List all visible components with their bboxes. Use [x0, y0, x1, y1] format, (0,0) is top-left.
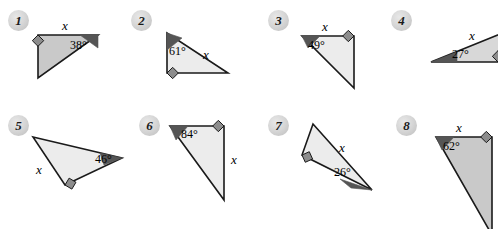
figure-number-badge-4: 4 [391, 10, 412, 31]
triangle-figure-1 [32, 35, 98, 78]
angle-label-8: 62° [443, 139, 460, 154]
figure-number-badge-2: 2 [131, 10, 152, 31]
angle-label-4: 27° [452, 47, 469, 62]
figure-number-badge-1: 1 [8, 10, 29, 31]
right-angle-marker [213, 120, 224, 131]
figure-number-badge-3: 3 [268, 10, 289, 31]
angle-wedge-marker [340, 179, 372, 190]
figure-number-badge-7: 7 [268, 115, 289, 136]
unknown-side-label-1: x [62, 18, 68, 34]
triangle-diagrams-layer [0, 0, 498, 229]
triangle-figure-7 [302, 124, 372, 190]
right-angle-marker [343, 30, 354, 41]
worksheet-page: 1x38°2x61°3x49°4x27°5x46°684°x7x26°8x62° [0, 0, 498, 229]
angle-label-1: 38° [70, 38, 87, 53]
unknown-side-label-2: x [203, 47, 209, 63]
unknown-side-label-3: x [322, 19, 328, 35]
right-angle-marker [65, 178, 76, 189]
unknown-side-label-5: x [36, 162, 42, 178]
angle-label-6: 84° [181, 127, 198, 142]
unknown-side-label-7: x [339, 140, 345, 156]
right-angle-marker [481, 131, 492, 142]
right-angle-marker [32, 35, 43, 46]
right-angle-marker [492, 51, 498, 62]
angle-label-7: 26° [334, 165, 351, 180]
triangle-outline [38, 35, 98, 78]
right-angle-marker [167, 67, 178, 78]
unknown-side-label-8: x [456, 120, 462, 136]
figure-number-badge-5: 5 [8, 115, 29, 136]
triangle-outline [302, 124, 372, 190]
figure-number-badge-8: 8 [396, 115, 417, 136]
angle-label-2: 61° [169, 44, 186, 59]
unknown-side-label-4: x [469, 28, 475, 44]
right-angle-marker [302, 152, 313, 163]
angle-label-5: 46° [95, 152, 112, 167]
figure-number-badge-6: 6 [139, 115, 160, 136]
unknown-side-label-6: x [231, 152, 237, 168]
angle-label-3: 49° [308, 38, 325, 53]
